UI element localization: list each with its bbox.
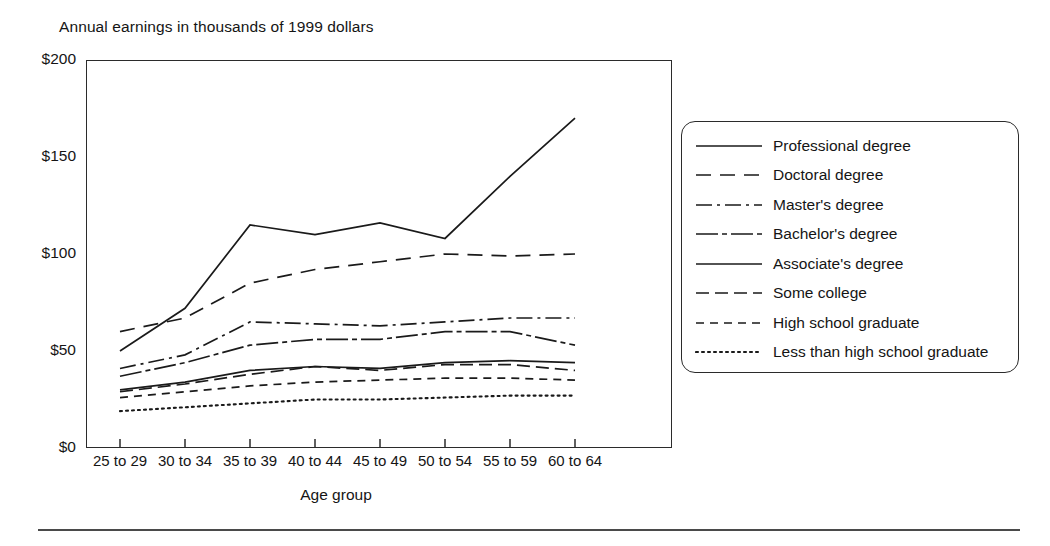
y-axis-tick-label: $200 bbox=[2, 50, 76, 68]
chart-title: Annual earnings in thousands of 1999 dol… bbox=[59, 18, 374, 36]
solid-line-swatch bbox=[695, 257, 763, 271]
legend-item[interactable]: Bachelor's degree bbox=[682, 220, 1018, 250]
x-axis-tick-label: 25 to 29 bbox=[93, 452, 147, 469]
x-axis-tick-label: 60 to 64 bbox=[548, 452, 602, 469]
legend-item-label: Some college bbox=[773, 284, 867, 302]
solid-line-swatch bbox=[695, 139, 763, 153]
dash-dot-line-swatch bbox=[695, 198, 763, 212]
long-dash-line-swatch bbox=[695, 168, 763, 182]
medium-dash-line-swatch bbox=[695, 286, 763, 300]
legend-item[interactable]: Master's degree bbox=[682, 190, 1018, 220]
legend-item[interactable]: Associate's degree bbox=[682, 249, 1018, 279]
legend-item[interactable]: Some college bbox=[682, 279, 1018, 309]
legend-item-label: Professional degree bbox=[773, 137, 911, 155]
legend-item[interactable]: Professional degree bbox=[682, 131, 1018, 161]
legend-item-label: Master's degree bbox=[773, 196, 884, 214]
legend-item[interactable]: Less than high school graduate bbox=[682, 338, 1018, 368]
y-axis-tick-label: $50 bbox=[2, 341, 76, 359]
legend-item-label: Associate's degree bbox=[773, 255, 903, 273]
legend-item-label: High school graduate bbox=[773, 314, 920, 332]
y-axis-tick-label: $0 bbox=[2, 438, 76, 456]
x-axis-tick-label: 40 to 44 bbox=[288, 452, 342, 469]
x-axis-tick-label: 30 to 34 bbox=[158, 452, 212, 469]
y-axis-tick-label: $100 bbox=[2, 244, 76, 262]
legend-item[interactable]: High school graduate bbox=[682, 308, 1018, 338]
earnings-by-education-chart: Annual earnings in thousands of 1999 dol… bbox=[0, 0, 1050, 546]
legend: Professional degreeDoctoral degreeMaster… bbox=[681, 121, 1019, 373]
x-axis-tick-label: 50 to 54 bbox=[418, 452, 472, 469]
x-axis-tick-label: 45 to 49 bbox=[353, 452, 407, 469]
x-axis-title: Age group bbox=[0, 486, 672, 504]
short-dash-line-swatch bbox=[695, 316, 763, 330]
x-axis-tick-label: 35 to 39 bbox=[223, 452, 277, 469]
legend-item-label: Less than high school graduate bbox=[773, 343, 988, 361]
x-axis-tick-label: 55 to 59 bbox=[483, 452, 537, 469]
legend-item[interactable]: Doctoral degree bbox=[682, 161, 1018, 191]
legend-item-label: Bachelor's degree bbox=[773, 225, 897, 243]
footer-divider bbox=[38, 529, 1020, 531]
legend-item-label: Doctoral degree bbox=[773, 166, 883, 184]
long-dash-short-line-swatch bbox=[695, 227, 763, 241]
plot-area-frame bbox=[86, 60, 672, 448]
dotted-line-swatch bbox=[695, 345, 763, 359]
y-axis-tick-label: $150 bbox=[2, 147, 76, 165]
legend-list: Professional degreeDoctoral degreeMaster… bbox=[682, 131, 1018, 367]
